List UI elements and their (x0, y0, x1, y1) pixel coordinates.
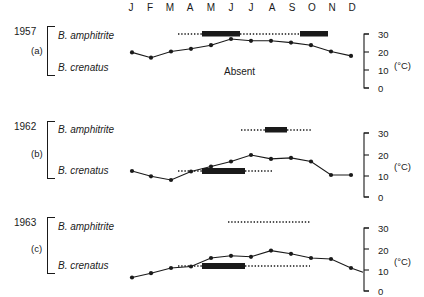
ytick-0-1963: 0 (378, 286, 383, 297)
month-label-mar: M (163, 2, 177, 14)
ytick-20-1957: 20 (378, 47, 389, 58)
settlement-bar-amphitrite-1962 (241, 127, 311, 133)
ytick-30-1962: 30 (378, 128, 389, 139)
ytick-0-1957: 0 (378, 83, 383, 94)
month-label-jan: J (124, 2, 138, 14)
species-label-crenatus-1963: B. crenatus (58, 260, 109, 272)
panel-bracket-c (47, 217, 55, 274)
species-label-crenatus-1957: B. crenatus (58, 62, 109, 74)
settlement-bar-amphitrite-1957 (178, 31, 328, 37)
temperature-curve-1957 (130, 37, 353, 60)
temperature-axis-1962 (364, 133, 369, 197)
ytick-10-1962: 10 (378, 171, 389, 182)
ytick-20-1962: 20 (378, 150, 389, 161)
panel-year-1962: 1962 (14, 121, 36, 133)
temperature-axis-1963 (364, 228, 369, 291)
panel-letter-c: (c) (31, 243, 42, 254)
panel-bracket-a (47, 26, 55, 76)
absent-label-1957: Absent (224, 66, 255, 78)
axis-unit-1957: (°C) (394, 60, 411, 71)
ytick-10-1963: 10 (378, 266, 389, 277)
month-label-aug: A (265, 2, 279, 14)
settlement-bar-crenatus-1963 (178, 263, 310, 269)
panel-letter-b: (b) (31, 148, 43, 159)
settlement-bar-crenatus-1962 (178, 168, 272, 174)
ytick-10-1957: 10 (378, 65, 389, 76)
ytick-0-1962: 0 (378, 192, 383, 203)
month-label-nov: N (325, 2, 339, 14)
month-label-jul: J (244, 2, 258, 14)
ytick-20-1963: 20 (378, 245, 389, 256)
species-label-amphitrite-1963: B. amphitrite (58, 221, 114, 233)
month-label-dec: D (345, 2, 359, 14)
temperature-curve-1962 (130, 153, 353, 182)
panel-bracket-b (47, 121, 55, 179)
ytick-30-1963: 30 (378, 223, 389, 234)
month-label-apr: A (183, 2, 197, 14)
temperature-axis-1957 (364, 34, 369, 88)
month-label-oct: O (305, 2, 319, 14)
species-label-amphitrite-1962: B. amphitrite (58, 124, 114, 136)
species-label-crenatus-1962: B. crenatus (58, 165, 109, 177)
panel-year-1957: 1957 (14, 26, 36, 38)
month-label-may: M (204, 2, 218, 14)
month-label-sep: S (285, 2, 299, 14)
panel-letter-a: (a) (31, 45, 43, 56)
axis-unit-1963: (°C) (394, 256, 411, 267)
axis-unit-1962: (°C) (394, 161, 411, 172)
species-label-amphitrite-1957: B. amphitrite (58, 30, 114, 42)
month-label-jun: J (224, 2, 238, 14)
month-label-feb: F (143, 2, 157, 14)
ytick-30-1957: 30 (378, 29, 389, 40)
month-axis: J F M A M J J A S O N D (0, 2, 424, 16)
temperature-curve-1963 (130, 249, 363, 280)
panel-year-1963: 1963 (14, 217, 36, 229)
